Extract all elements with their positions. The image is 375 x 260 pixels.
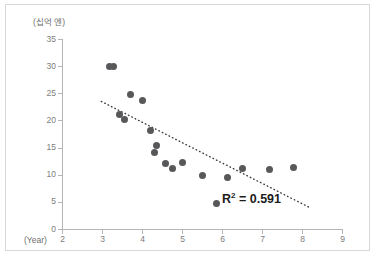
data-point (290, 164, 297, 171)
x-tick-label: 5 (173, 235, 193, 244)
data-point (213, 200, 220, 207)
y-tick-mark (58, 66, 62, 67)
x-axis-line (62, 229, 343, 230)
data-point (121, 116, 128, 123)
r-squared-annotation: R2 = 0.591 (222, 191, 281, 206)
x-tick-label: 9 (333, 235, 353, 244)
data-point (266, 166, 273, 173)
data-point (139, 97, 146, 104)
y-tick-mark (58, 93, 62, 94)
scatter-plot-area: (십억 엔) (Year) 05101520253035 23456789 R2… (0, 0, 375, 260)
data-point (153, 142, 160, 149)
x-tick-label: 2 (53, 235, 73, 244)
y-tick-label: 25 (32, 89, 56, 98)
data-point (162, 160, 169, 167)
data-point (151, 149, 158, 156)
y-tick-label: 10 (32, 170, 56, 179)
y-tick-mark (58, 202, 62, 203)
data-point (110, 63, 117, 70)
data-point (224, 174, 231, 181)
x-tick-label: 3 (93, 235, 113, 244)
data-point (147, 127, 154, 134)
y-tick-label: 20 (32, 116, 56, 125)
y-tick-label: 35 (32, 35, 56, 44)
y-tick-label: 5 (32, 197, 56, 206)
data-point (127, 91, 134, 98)
y-tick-mark (58, 175, 62, 176)
trendline (0, 0, 375, 260)
data-point (239, 165, 246, 172)
data-point (179, 159, 186, 166)
y-axis-title: (십억 엔) (33, 15, 65, 27)
x-tick-label: 7 (253, 235, 273, 244)
y-tick-mark (58, 39, 62, 40)
x-tick-label: 4 (133, 235, 153, 244)
data-point (199, 172, 206, 179)
y-axis-line (62, 39, 63, 230)
x-tick-label: 6 (213, 235, 233, 244)
y-tick-label: 0 (32, 225, 56, 234)
y-tick-mark (58, 148, 62, 149)
y-tick-label: 30 (32, 62, 56, 71)
data-point (169, 165, 176, 172)
x-tick-label: 8 (293, 235, 313, 244)
x-axis-title: (Year) (24, 235, 47, 245)
y-tick-mark (58, 120, 62, 121)
chart-figure: (십억 엔) (Year) 05101520253035 23456789 R2… (0, 0, 375, 260)
y-tick-label: 15 (32, 143, 56, 152)
